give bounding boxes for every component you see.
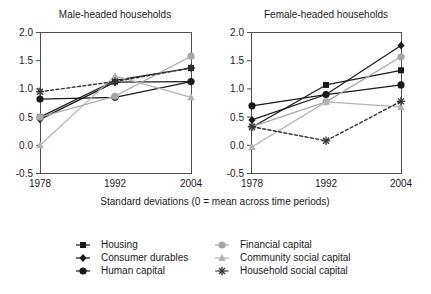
circle-icon bbox=[36, 95, 43, 102]
x-tick-label-1992-male: 1992 bbox=[104, 178, 127, 189]
asterisk-icon bbox=[322, 137, 330, 145]
y-tick-label-1.0-female: 1.0 bbox=[230, 83, 244, 94]
chart-legend: HousingConsumer durablesHuman capitalFin… bbox=[76, 239, 351, 276]
x-tick-label-1992-female: 1992 bbox=[315, 178, 338, 189]
circle-icon bbox=[79, 267, 86, 274]
y-tick-label-1.5-male: 1.5 bbox=[19, 55, 33, 66]
panel-title-male: Male-headed households bbox=[59, 9, 171, 20]
circle-icon bbox=[187, 53, 194, 60]
x-tick-label-1978-male: 1978 bbox=[29, 178, 52, 189]
chart-figure: Male-headed households 2.0 1.5 1.0 0.5 0… bbox=[0, 0, 431, 294]
asterisk-icon bbox=[111, 77, 119, 85]
triangle-icon bbox=[248, 143, 256, 150]
legend-item-financial-capital[interactable]: Financial capital bbox=[215, 239, 312, 250]
y-tick-label-2.0-female: 2.0 bbox=[230, 27, 244, 38]
series-household-social-capital bbox=[36, 64, 195, 96]
x-tick-label-1978-female: 1978 bbox=[241, 178, 264, 189]
legend-item-consumer-durables[interactable]: Consumer durables bbox=[76, 252, 188, 263]
asterisk-icon bbox=[248, 122, 256, 130]
x-tick-label-2004-female: 2004 bbox=[390, 178, 413, 189]
legend-item-housing[interactable]: Housing bbox=[76, 239, 138, 250]
y-tick-label-0.0-female: 0.0 bbox=[230, 140, 244, 151]
y-tick-label-2.0-male: 2.0 bbox=[19, 27, 33, 38]
asterisk-icon bbox=[397, 97, 405, 105]
square-icon bbox=[323, 82, 329, 88]
asterisk-icon bbox=[36, 88, 44, 96]
circle-icon bbox=[397, 81, 404, 88]
y-tick-label-0.5-male: 0.5 bbox=[19, 112, 33, 123]
y-tick-label-1.5-female: 1.5 bbox=[230, 55, 244, 66]
circle-icon bbox=[397, 53, 404, 60]
circle-icon bbox=[36, 114, 43, 121]
y-tick-label-1.0-male: 1.0 bbox=[19, 83, 33, 94]
legend-label: Community social capital bbox=[240, 252, 351, 263]
legend-label: Financial capital bbox=[240, 239, 312, 250]
y-tick-label-0.5-female: 0.5 bbox=[230, 112, 244, 123]
legend-label: Household social capital bbox=[240, 265, 348, 276]
plot-frame-male bbox=[41, 33, 192, 174]
series-group-male bbox=[36, 53, 195, 149]
panel-male-headed-households: Male-headed households 2.0 1.5 1.0 0.5 0… bbox=[16, 9, 203, 189]
legend-label: Human capital bbox=[101, 265, 165, 276]
legend-label: Housing bbox=[101, 239, 138, 250]
legend-label: Consumer durables bbox=[101, 252, 188, 263]
legend-item-household-social-capital[interactable]: Household social capital bbox=[215, 265, 348, 276]
circle-icon bbox=[322, 91, 329, 98]
asterisk-icon bbox=[218, 267, 226, 275]
y-tick-label-0.0-male: 0.0 bbox=[19, 140, 33, 151]
series-group-female bbox=[248, 41, 405, 150]
asterisk-icon bbox=[187, 64, 195, 72]
legend-item-human-capital[interactable]: Human capital bbox=[76, 265, 165, 276]
x-tick-label-2004-male: 2004 bbox=[180, 178, 203, 189]
series-line bbox=[252, 101, 401, 140]
panel-female-headed-households: Female-headed households 2.0 1.5 1.0 0.5… bbox=[227, 9, 413, 189]
circle-icon bbox=[187, 78, 194, 85]
y-axis-female: 2.0 1.5 1.0 0.5 0.0 -0.5 bbox=[227, 27, 252, 179]
y-axis-male: 2.0 1.5 1.0 0.5 0.0 -0.5 bbox=[16, 27, 41, 179]
panel-title-female: Female-headed households bbox=[264, 9, 388, 20]
square-icon bbox=[398, 67, 404, 73]
circle-icon bbox=[248, 102, 255, 109]
diamond-icon bbox=[397, 41, 404, 49]
legend-item-community-social-capital[interactable]: Community social capital bbox=[215, 252, 351, 263]
x-axis-caption: Standard deviations (0 = mean across tim… bbox=[100, 196, 329, 207]
x-axis-male: 1978 1992 2004 bbox=[29, 178, 203, 189]
series-financial-capital bbox=[36, 53, 194, 121]
diamond-icon bbox=[79, 254, 86, 262]
x-axis-female: 1978 1992 2004 bbox=[241, 178, 413, 189]
circle-icon bbox=[111, 93, 118, 100]
square-icon bbox=[80, 242, 86, 248]
circle-icon bbox=[218, 241, 225, 248]
